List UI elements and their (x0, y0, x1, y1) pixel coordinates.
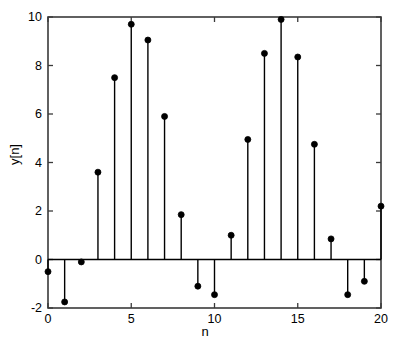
data-point-marker (228, 232, 234, 238)
data-point-marker (128, 21, 134, 27)
x-tick-label: 20 (361, 312, 401, 326)
x-tick-label: 0 (28, 312, 68, 326)
data-point-marker (78, 259, 84, 265)
data-point-marker (311, 141, 317, 147)
data-point-marker (145, 37, 151, 43)
data-point-marker (162, 113, 168, 119)
x-tick-label: 15 (278, 312, 318, 326)
y-tick-label: 10 (8, 10, 42, 24)
data-point-marker (95, 169, 101, 175)
data-point-marker (261, 50, 267, 56)
data-point-marker (361, 278, 367, 284)
data-point-marker (195, 283, 201, 289)
data-point-marker (345, 292, 351, 298)
data-point-marker (62, 299, 68, 305)
y-axis-label: y[n] (8, 127, 21, 183)
x-tick-label: 5 (111, 312, 151, 326)
y-tick-label: 0 (8, 253, 42, 267)
data-point-marker (278, 16, 284, 22)
data-point-marker (112, 75, 118, 81)
y-tick-label: 2 (8, 204, 42, 218)
data-point-marker (295, 54, 301, 60)
y-tick-label: 8 (8, 59, 42, 73)
data-point-marker (328, 236, 334, 242)
stem-plot-canvas (0, 0, 410, 344)
y-axis-label-wrap: y[n] (4, 126, 22, 196)
data-point-marker (45, 269, 51, 275)
data-point-marker (212, 292, 218, 298)
data-point-marker (245, 136, 251, 142)
data-point-marker (178, 212, 184, 218)
data-point-marker (378, 203, 384, 209)
x-axis-label: n (0, 325, 410, 338)
stem-plot-figure: -2024681005101520 y[n] n (0, 0, 410, 344)
y-tick-label: 6 (8, 107, 42, 121)
